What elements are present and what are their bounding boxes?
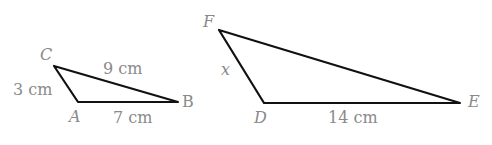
side-label-de: 14 cm	[328, 110, 378, 126]
vertex-label-f: F	[203, 14, 214, 30]
vertex-label-a: A	[69, 109, 81, 125]
side-label-fd: x	[221, 62, 230, 78]
side-label-cb: 9 cm	[103, 61, 142, 77]
side-label-ca: 3 cm	[13, 82, 52, 98]
similar-triangles-diagram: C A B 3 cm 9 cm 7 cm F D E x 14 cm	[0, 0, 492, 145]
triangle-def	[219, 30, 460, 103]
vertex-label-e: E	[468, 94, 480, 110]
vertex-label-d: D	[254, 110, 267, 126]
vertex-label-b: B	[182, 94, 194, 110]
side-label-ab: 7 cm	[113, 110, 152, 126]
vertex-label-c: C	[40, 47, 52, 63]
